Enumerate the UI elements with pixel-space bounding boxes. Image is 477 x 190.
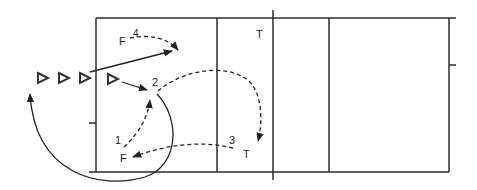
return-to-line-arrow <box>30 94 173 181</box>
ball-path-1 <box>124 100 150 147</box>
court-lines <box>89 10 456 180</box>
step-4-label: 4 <box>133 28 139 39</box>
queue-triangle-icon <box>59 73 69 83</box>
player-t-top-label: T <box>256 28 263 40</box>
queue-triangle-icon <box>108 74 118 84</box>
court-svg: F 4 T 2 1 F 3 T <box>0 0 477 190</box>
player-t-bottom-label: T <box>243 148 250 160</box>
player-queue <box>38 73 118 84</box>
queue-triangle-icon <box>80 73 90 83</box>
drill-diagram: F 4 T 2 1 F 3 T <box>0 0 477 190</box>
player-f-top-label: F <box>119 35 126 47</box>
ball-path-3 <box>133 144 233 157</box>
player-f-bottom-label: F <box>120 152 127 164</box>
step-1-label: 1 <box>115 134 121 146</box>
approach-arrow <box>90 51 172 72</box>
to-setter-arrow <box>122 82 147 90</box>
step-2-label: 2 <box>152 76 158 88</box>
queue-triangle-icon <box>38 73 48 83</box>
step-3-label: 3 <box>229 134 235 146</box>
